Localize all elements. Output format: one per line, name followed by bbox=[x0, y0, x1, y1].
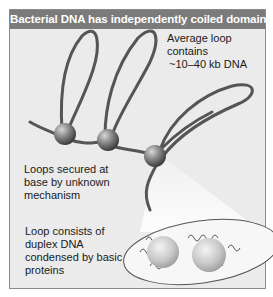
label-line: condensed by basic bbox=[25, 251, 122, 264]
label-line: Loop consists of bbox=[25, 225, 122, 238]
loop-size-label: Average loop contains ~10–40 kb DNA bbox=[167, 32, 247, 71]
label-line: Average loop bbox=[167, 32, 247, 45]
label-line: ~10–40 kb DNA bbox=[167, 58, 247, 71]
protein-ball-1 bbox=[147, 236, 179, 268]
label-line: Loops secured at bbox=[24, 163, 110, 176]
label-line: proteins bbox=[25, 264, 122, 277]
protein-ball-2 bbox=[192, 238, 226, 272]
composition-label: Loop consists of duplex DNA condensed by… bbox=[25, 225, 122, 277]
bead-3 bbox=[144, 145, 166, 167]
bead-2 bbox=[97, 129, 119, 151]
label-line: base by unknown bbox=[24, 176, 110, 189]
label-line: duplex DNA bbox=[25, 238, 122, 251]
label-line: mechanism bbox=[24, 189, 110, 202]
base-label: Loops secured at base by unknown mechani… bbox=[24, 163, 110, 202]
base-beads bbox=[54, 123, 166, 167]
label-line: contains bbox=[167, 45, 247, 58]
bead-1 bbox=[54, 123, 76, 145]
